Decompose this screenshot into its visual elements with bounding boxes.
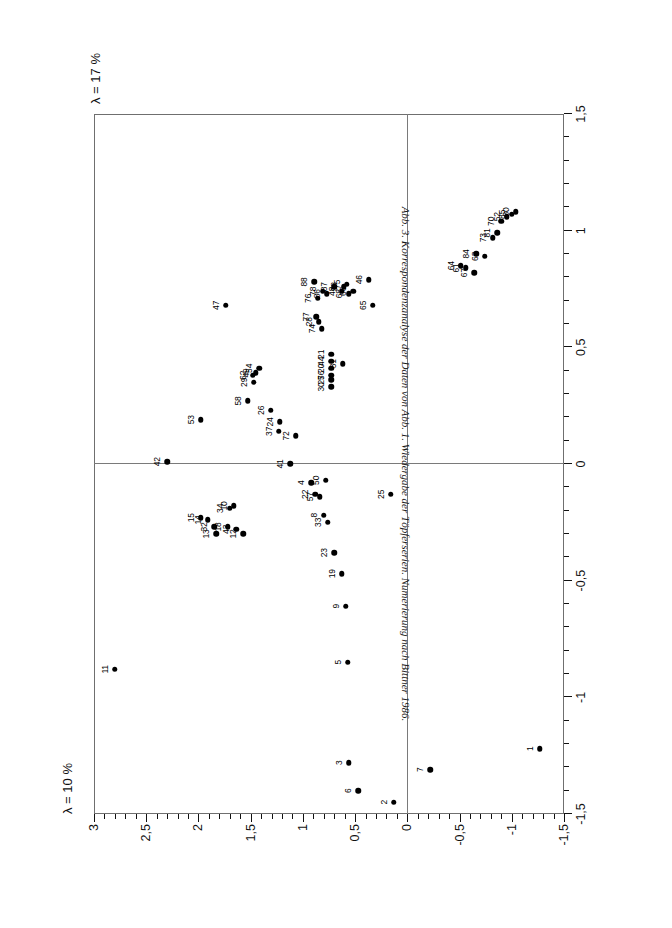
y-tick	[512, 814, 513, 822]
data-point	[293, 433, 299, 439]
data-point-label: 87	[319, 282, 329, 291]
y-tick	[136, 814, 137, 819]
data-point-label: 81	[482, 228, 492, 237]
x-tick	[564, 510, 569, 511]
y-tick	[313, 814, 314, 819]
data-point	[324, 291, 330, 297]
data-point-label: 58	[233, 396, 243, 405]
lambda-x-label: λ = 17 %	[88, 53, 103, 104]
y-tick	[292, 814, 293, 819]
data-point	[331, 550, 337, 556]
data-point	[474, 251, 480, 257]
data-point-label: 4	[296, 480, 306, 485]
y-tick	[209, 814, 210, 819]
data-point-label: 41	[275, 459, 285, 468]
data-point-label: 33	[313, 518, 323, 527]
data-point	[340, 361, 346, 367]
data-point-label: 64	[446, 261, 456, 270]
y-tick	[115, 814, 116, 819]
data-point-label: 26	[256, 406, 266, 415]
y-tick	[230, 814, 231, 819]
y-tick-label: 2,5	[139, 824, 153, 858]
figure-page: -1,5-1-0,500,511,5 -1,5-1-0,500,511,522,…	[0, 0, 672, 928]
y-tick-label: -1	[505, 824, 519, 858]
y-tick	[355, 814, 356, 822]
y-tick	[261, 814, 262, 819]
data-point-label: 30	[316, 382, 326, 391]
data-point	[343, 604, 349, 610]
data-point	[223, 303, 229, 309]
y-tick	[460, 814, 461, 822]
y-tick	[125, 814, 126, 819]
data-point	[428, 767, 434, 773]
data-point-label: 15	[186, 513, 196, 522]
y-tick	[219, 814, 220, 819]
y-tick	[418, 814, 419, 819]
x-tick	[564, 766, 569, 767]
data-point	[328, 352, 334, 358]
data-point-label: 24	[265, 417, 275, 426]
data-point-label: 65	[358, 301, 368, 310]
y-tick-label: -1,5	[557, 824, 571, 858]
data-point-label: 68	[334, 289, 344, 298]
data-point	[319, 326, 325, 332]
data-point-label: 2	[379, 800, 389, 805]
data-point	[288, 461, 294, 467]
y-tick-label: 0,5	[348, 824, 362, 858]
data-point	[366, 277, 372, 283]
x-tick-label: -0,5	[574, 570, 588, 592]
data-point	[241, 531, 247, 537]
data-point	[345, 660, 351, 666]
x-tick	[564, 253, 569, 254]
data-point-label: 85	[497, 210, 507, 219]
x-tick-label: -1,5	[574, 803, 588, 825]
data-point-label: 50	[311, 476, 321, 485]
y-tick	[178, 814, 179, 819]
y-tick	[397, 814, 398, 819]
data-point-label: 43	[221, 525, 231, 534]
x-tick	[564, 416, 569, 417]
data-point	[323, 478, 329, 484]
data-point-label: 84	[461, 249, 471, 258]
x-tick	[564, 300, 569, 301]
x-tick	[564, 673, 569, 674]
y-tick	[386, 814, 387, 819]
y-tick-label: 0	[400, 824, 414, 858]
data-point-label: 11	[100, 665, 110, 673]
data-point-label: 37	[264, 427, 274, 436]
x-tick	[564, 463, 572, 464]
data-point	[344, 282, 350, 288]
data-point	[317, 494, 323, 500]
x-tick	[564, 160, 569, 161]
data-point-label: 57	[305, 492, 315, 501]
data-point	[391, 800, 397, 806]
x-tick	[564, 603, 569, 604]
data-point	[164, 459, 170, 465]
data-point	[198, 515, 204, 521]
y-tick	[146, 814, 147, 822]
y-tick-label: 1	[296, 824, 310, 858]
y-tick	[334, 814, 335, 819]
data-point-label: 72	[281, 431, 291, 440]
x-tick	[564, 626, 569, 627]
data-point-label: 3	[334, 760, 344, 765]
plot-stage: -1,5-1-0,500,511,5 -1,5-1-0,500,511,522,…	[36, 34, 636, 894]
data-point-label: 62	[238, 371, 248, 380]
x-tick	[564, 346, 572, 347]
y-tick	[345, 814, 346, 819]
data-point-label: 74	[307, 324, 317, 333]
data-point	[325, 520, 331, 526]
data-point	[245, 398, 251, 404]
data-point	[268, 408, 274, 414]
lambda-y-label: λ = 10 %	[60, 763, 75, 814]
y-tick	[94, 814, 95, 822]
data-point	[346, 291, 352, 297]
x-tick	[564, 183, 569, 184]
x-tick	[564, 113, 572, 114]
data-point-label: 56	[316, 371, 326, 380]
data-point-label: 25	[376, 490, 386, 499]
data-point	[509, 212, 515, 218]
x-tick	[564, 743, 569, 744]
data-point-label: 88	[299, 277, 309, 286]
x-tick	[564, 813, 572, 814]
